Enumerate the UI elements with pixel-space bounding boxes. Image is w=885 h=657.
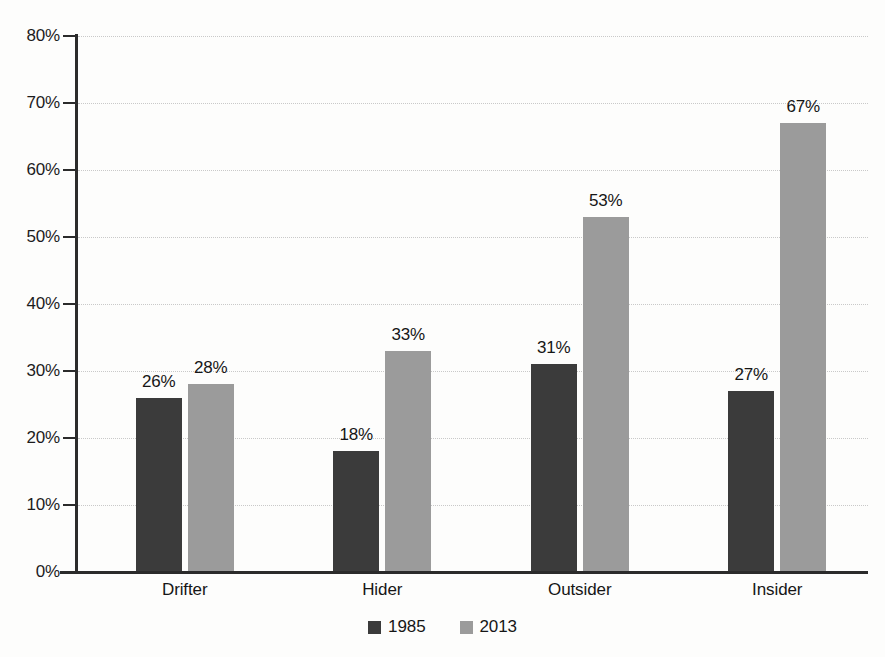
- legend-item-2013: 2013: [460, 617, 517, 637]
- y-axis-tick-label: 10%: [4, 495, 60, 515]
- y-axis-tick: [63, 504, 76, 506]
- y-axis-tick: [63, 169, 76, 171]
- bar-drifter-1985: 26%: [136, 398, 182, 572]
- bar-value-label: 26%: [142, 372, 175, 392]
- y-axis-tick-label: 70%: [4, 93, 60, 113]
- y-axis-tick: [63, 35, 76, 37]
- legend-label-1985: 1985: [388, 617, 425, 637]
- chart-legend: 19852013: [0, 617, 885, 637]
- y-axis-labels: 0%10%20%30%40%50%60%70%80%: [0, 0, 60, 657]
- bar-value-label: 67%: [787, 97, 820, 117]
- bar-value-label: 18%: [340, 425, 373, 445]
- x-axis-line: [60, 571, 868, 574]
- bar-chart: 0%10%20%30%40%50%60%70%80% 26%28%18%33%3…: [0, 0, 885, 657]
- bar-insider-1985: 27%: [728, 391, 774, 572]
- bar-value-label: 27%: [735, 365, 768, 385]
- bar-value-label: 31%: [537, 338, 570, 358]
- y-axis-tick-label: 80%: [4, 26, 60, 46]
- legend-swatch-2013: [460, 621, 473, 634]
- bar-outsider-1985: 31%: [531, 364, 577, 572]
- category-label-insider: Insider: [688, 580, 866, 600]
- y-axis-tick-label: 40%: [4, 294, 60, 314]
- y-axis-tick: [63, 236, 76, 238]
- y-axis-tick: [63, 102, 76, 104]
- bar-insider-2013: 67%: [780, 123, 826, 572]
- y-axis-tick-label: 20%: [4, 428, 60, 448]
- y-axis-tick: [63, 571, 76, 573]
- legend-label-2013: 2013: [480, 617, 517, 637]
- y-axis-tick-label: 0%: [4, 562, 60, 582]
- y-axis-tick-label: 30%: [4, 361, 60, 381]
- bar-group: 18%33%: [333, 36, 431, 572]
- bar-value-label: 28%: [194, 358, 227, 378]
- y-axis-tick-label: 50%: [4, 227, 60, 247]
- y-axis-tick: [63, 437, 76, 439]
- bar-group: 31%53%: [531, 36, 629, 572]
- bar-value-label: 33%: [392, 325, 425, 345]
- bar-outsider-2013: 53%: [583, 217, 629, 572]
- y-axis-tick: [63, 303, 76, 305]
- bar-drifter-2013: 28%: [188, 384, 234, 572]
- bar-value-label: 53%: [589, 191, 622, 211]
- y-axis-tick-label: 60%: [4, 160, 60, 180]
- category-label-outsider: Outsider: [491, 580, 669, 600]
- category-label-hider: Hider: [293, 580, 471, 600]
- legend-item-1985: 1985: [368, 617, 425, 637]
- plot-area: 26%28%18%33%31%53%27%67%: [78, 36, 868, 572]
- bar-hider-2013: 33%: [385, 351, 431, 572]
- bar-hider-1985: 18%: [333, 451, 379, 572]
- bar-group: 26%28%: [136, 36, 234, 572]
- bar-group: 27%67%: [728, 36, 826, 572]
- y-axis-tick: [63, 370, 76, 372]
- legend-swatch-1985: [368, 621, 381, 634]
- category-label-drifter: Drifter: [96, 580, 274, 600]
